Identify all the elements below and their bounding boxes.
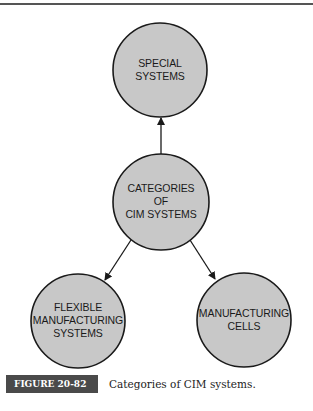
figure-caption-text: Categories of CIM systems. (109, 378, 256, 390)
edge-categories-to-fms (105, 240, 131, 280)
node-cells-label: MANUFACTURING CELLS (197, 307, 291, 333)
node-special-label: SPECIAL SYSTEMS (113, 57, 207, 83)
label-line: SYSTEMS (31, 327, 125, 340)
label-line: CIM SYSTEMS (113, 208, 209, 221)
label-line: MANUFACTURING (197, 307, 291, 320)
label-line: SPECIAL (113, 57, 207, 70)
node-fms-label: FLEXIBLE MANUFACTURING SYSTEMS (31, 301, 125, 340)
node-categories-label: CATEGORIES OF CIM SYSTEMS (113, 182, 209, 221)
label-line: FLEXIBLE (31, 301, 125, 314)
figure-number-badge: FIGURE 20-82 (6, 375, 98, 393)
label-line: CATEGORIES (113, 182, 209, 195)
label-line: SYSTEMS (113, 70, 207, 83)
label-line: OF (113, 195, 209, 208)
edge-categories-to-cells (190, 240, 215, 279)
figure-caption: FIGURE 20-82 Categories of CIM systems. (6, 375, 256, 393)
label-line: MANUFACTURING (31, 314, 125, 327)
label-line: CELLS (197, 320, 291, 333)
